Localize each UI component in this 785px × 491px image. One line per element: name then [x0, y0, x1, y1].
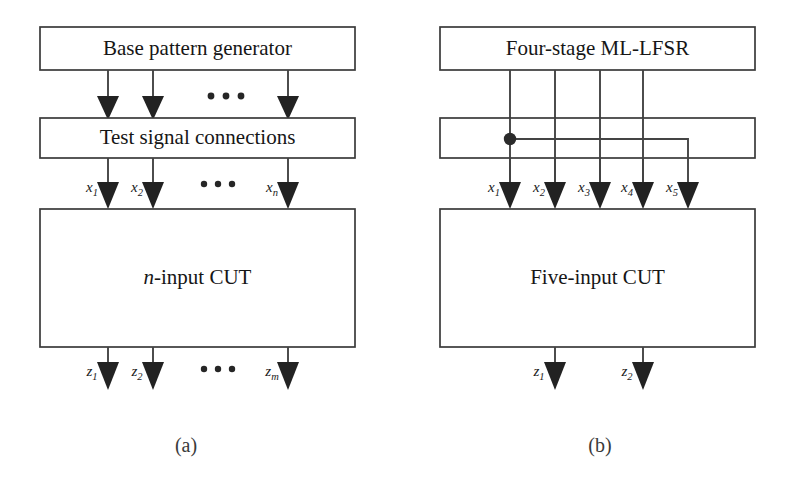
ellipsis-output-row: [201, 366, 235, 372]
signal-label-zm: zm: [264, 363, 279, 382]
signal-label-x4-b: x4: [620, 179, 634, 198]
arrowhead-zm: [277, 362, 299, 390]
signal-label-z1-b: z1: [532, 363, 544, 382]
block-diagram-figure: Base pattern generator Test signal conne…: [0, 0, 785, 491]
arrowhead-z1-b: [544, 362, 566, 390]
arrowhead-gen-1: [97, 96, 119, 120]
signal-label-z2-b: z2: [620, 363, 633, 382]
ellipsis-generator-row: [208, 93, 245, 100]
arrowhead-z1: [97, 362, 119, 390]
box-test-signal-connections-label: Test signal connections: [100, 125, 296, 149]
arrowhead-x2-b: [544, 182, 566, 209]
arrowhead-gen-2: [142, 96, 164, 120]
box-four-stage-ml-lfsr-label: Four-stage ML-LFSR: [506, 36, 689, 60]
arrowhead-z2-b: [632, 362, 654, 390]
signal-label-x3-b: x3: [577, 179, 590, 198]
wires-connections-to-cut: x1 x2 xn: [85, 158, 299, 209]
caption-panel-b: (b): [588, 434, 611, 457]
arrowhead-x1-b: [499, 182, 521, 209]
wires-cut-outputs: z1 z2 zm: [85, 347, 299, 390]
box-base-pattern-generator-label: Base pattern generator: [103, 36, 292, 60]
arrowhead-x3-b: [589, 182, 611, 209]
fanout-junction-dot: [504, 133, 516, 145]
signal-label-z1: z1: [85, 363, 97, 382]
caption-panel-a: (a): [175, 434, 197, 457]
arrowhead-x2: [142, 182, 164, 209]
wires-connections-to-cut-b: x1 x2 x3 x4 x5: [487, 179, 699, 209]
signal-label-x1-b: x1: [487, 179, 500, 198]
panel-b: Four-stage ML-LFSR: [440, 27, 755, 457]
wires-generator-to-connections: [97, 70, 299, 120]
arrowhead-z2: [142, 362, 164, 390]
box-five-input-cut-label: Five-input CUT: [530, 265, 665, 289]
arrowhead-x1: [97, 182, 119, 209]
signal-label-z2: z2: [130, 363, 143, 382]
figure-root: Base pattern generator Test signal conne…: [0, 0, 785, 491]
signal-label-x2-b: x2: [532, 179, 546, 198]
signal-label-x2: x2: [130, 179, 144, 198]
arrowhead-gen-n: [277, 96, 299, 120]
arrowhead-xn: [277, 182, 299, 209]
box-test-signal-connections-b[interactable]: [440, 118, 755, 158]
panel-a: Base pattern generator Test signal conne…: [40, 27, 355, 457]
arrowhead-x4-b: [632, 182, 654, 209]
wires-cut-outputs-b: z1 z2: [532, 347, 654, 390]
ellipsis-input-row: [201, 181, 235, 187]
arrowhead-x5-b: [677, 182, 699, 209]
box-n-input-cut-label: n-input CUT: [144, 265, 252, 289]
signal-label-x5-b: x5: [665, 179, 678, 198]
signal-label-x1: x1: [85, 179, 98, 198]
signal-label-xn: xn: [265, 179, 278, 198]
